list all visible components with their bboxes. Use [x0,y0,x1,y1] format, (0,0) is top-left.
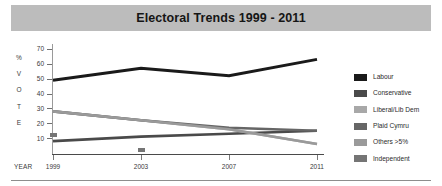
chart-page: Electoral Trends 1999 - 2011 %VOTE YEAR … [0,0,442,186]
legend-swatch-icon [354,74,367,81]
legend-item-label: Labour [373,73,394,81]
y-tick-label-50: 50 [28,75,44,82]
x-tick-label-2011: 2011 [302,163,332,171]
y-tick-label-60: 60 [28,60,44,67]
legend-swatch-icon [354,155,367,162]
y-axis-label-char-1: V [17,66,21,82]
plot-area [52,46,322,153]
series-line-conservative [53,131,317,141]
legend-item-others-5[interactable]: Others >5% [354,134,442,150]
y-tick-label-30: 30 [28,105,44,112]
chart-title-bar: Electoral Trends 1999 - 2011 [11,5,431,31]
legend-swatch-icon [354,106,367,113]
legend-item-label: Plaid Cymru [373,122,409,130]
y-tick-mark-20 [47,123,52,124]
x-tick-mark-1999 [53,155,54,160]
x-tick-label-2007: 2007 [214,163,244,171]
x-axis-title: YEAR [14,163,33,171]
y-tick-label-10: 10 [28,135,44,142]
x-tick-mark-2011 [317,155,318,160]
legend-item-label: Conservative [373,89,411,97]
legend-swatch-icon [354,90,367,97]
series-line-labour [53,59,317,80]
y-tick-label-40: 40 [28,90,44,97]
x-tick-mark-2003 [141,155,142,160]
x-tick-label-2003: 2003 [126,163,156,171]
legend-item-label: Independent [373,155,410,163]
y-tick-mark-50 [47,79,52,80]
independent-marker-1999 [50,133,57,137]
y-tick-label-20: 20 [28,120,44,127]
y-axis-label-char-2: O [16,82,21,98]
legend-item-plaid-cymru[interactable]: Plaid Cymru [354,118,442,134]
y-tick-mark-70 [47,49,52,50]
y-axis-label-char-3: T [17,99,21,115]
y-tick-mark-10 [47,138,52,139]
y-tick-mark-60 [47,64,52,65]
legend-item-independent[interactable]: Independent [354,150,442,166]
y-tick-mark-40 [47,94,52,95]
y-axis-label-char-4: E [17,115,21,131]
y-tick-label-70: 70 [28,45,44,52]
legend-item-label: Liberal/Lib Dem [373,106,419,114]
legend-swatch-icon [354,139,367,146]
chart-legend: LabourConservativeLiberal/Lib DemPlaid C… [354,69,442,167]
series-lines [52,46,322,153]
bottom-divider [11,180,431,181]
legend-item-liberal-lib-dem[interactable]: Liberal/Lib Dem [354,102,442,118]
legend-item-labour[interactable]: Labour [354,69,442,85]
x-tick-label-1999: 1999 [38,163,68,171]
legend-item-conservative[interactable]: Conservative [354,85,442,101]
legend-item-label: Others >5% [373,138,408,146]
independent-marker-2003 [138,148,145,152]
y-axis-label-char-0: % [16,50,22,66]
x-axis-line [52,154,324,155]
y-axis-label: %VOTE [13,50,25,131]
y-tick-mark-30 [47,108,52,109]
page-title: Electoral Trends 1999 - 2011 [136,11,306,25]
x-tick-mark-2007 [229,155,230,160]
legend-swatch-icon [354,123,367,130]
